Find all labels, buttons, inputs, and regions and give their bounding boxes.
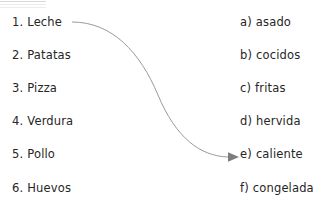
left-item-5-marker: 5. bbox=[12, 146, 23, 162]
left-item-6-label: Huevos bbox=[27, 180, 71, 196]
right-item-e-marker: e) bbox=[240, 146, 252, 162]
right-item-e-label: caliente bbox=[256, 146, 303, 162]
left-item-2-marker: 2. bbox=[12, 47, 23, 63]
right-item-d-label: hervida bbox=[256, 113, 301, 129]
right-item-b-marker: b) bbox=[240, 47, 252, 63]
right-item-f-marker: f) bbox=[240, 180, 249, 196]
artifact-line-1 bbox=[0, 1, 46, 2]
right-item-c[interactable]: c)fritas bbox=[240, 80, 286, 96]
artifact-line-3 bbox=[0, 7, 46, 8]
right-item-f-label: congelada bbox=[253, 180, 314, 196]
right-item-c-marker: c) bbox=[240, 80, 251, 96]
scan-artifact-lines bbox=[0, 1, 46, 9]
right-item-c-label: fritas bbox=[255, 80, 285, 96]
left-item-2-label: Patatas bbox=[27, 47, 71, 63]
right-item-d-marker: d) bbox=[240, 113, 252, 129]
left-item-5[interactable]: 5.Pollo bbox=[12, 146, 55, 162]
left-item-3-label: Pizza bbox=[27, 80, 57, 96]
matching-exercise: 1.Leche 2.Patatas 3.Pizza 4.Verdura 5.Po… bbox=[0, 0, 325, 209]
left-item-1[interactable]: 1.Leche bbox=[12, 14, 62, 30]
right-item-b-label: cocidos bbox=[256, 47, 300, 63]
artifact-line-2 bbox=[0, 4, 46, 5]
left-item-5-label: Pollo bbox=[27, 146, 55, 162]
left-item-3-marker: 3. bbox=[12, 80, 23, 96]
left-item-6-marker: 6. bbox=[12, 180, 23, 196]
left-item-3[interactable]: 3.Pizza bbox=[12, 80, 57, 96]
right-item-f[interactable]: f)congelada bbox=[240, 180, 314, 196]
left-item-4-label: Verdura bbox=[27, 113, 73, 129]
right-item-a[interactable]: a)asado bbox=[240, 14, 291, 30]
left-item-1-marker: 1. bbox=[12, 14, 23, 30]
right-item-a-label: asado bbox=[256, 14, 291, 30]
left-item-6[interactable]: 6.Huevos bbox=[12, 180, 71, 196]
left-item-2[interactable]: 2.Patatas bbox=[12, 47, 71, 63]
match-connector-curve bbox=[72, 22, 228, 157]
left-item-4[interactable]: 4.Verdura bbox=[12, 113, 73, 129]
connector-layer bbox=[0, 0, 325, 209]
match-connector-arrowhead-icon bbox=[228, 152, 239, 162]
right-item-e[interactable]: e)caliente bbox=[240, 146, 303, 162]
right-item-b[interactable]: b)cocidos bbox=[240, 47, 300, 63]
left-item-1-label: Leche bbox=[27, 14, 62, 30]
left-item-4-marker: 4. bbox=[12, 113, 23, 129]
right-item-d[interactable]: d)hervida bbox=[240, 113, 301, 129]
right-item-a-marker: a) bbox=[240, 14, 252, 30]
